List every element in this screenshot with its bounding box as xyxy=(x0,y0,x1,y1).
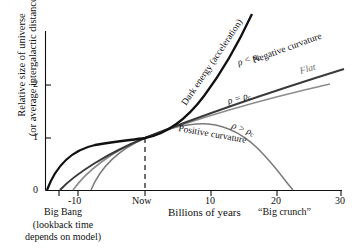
x-tick-label-30: 30 xyxy=(335,195,345,206)
y-tick-label-0: 0 xyxy=(33,184,38,195)
big-crunch-caption: “Big crunch” xyxy=(258,206,311,217)
y-tick-label-2: 2 xyxy=(33,78,38,89)
cosmology-expansion-figure: Dark energy (acceleration) Negative curv… xyxy=(0,0,358,251)
x-tick-label-10: 10 xyxy=(205,195,215,206)
y-axis-title-line2: (or average intergalactic distance) xyxy=(27,0,39,136)
big-bang-caption-line3: depends on model) xyxy=(2,231,124,244)
annotation-negative-curvature-text: Negative curvature xyxy=(251,31,323,65)
x-tick-label-minus10: -10 xyxy=(68,195,81,206)
y-tick-label-1: 1 xyxy=(33,131,38,142)
y-axis-title: Relative size of universe (or average in… xyxy=(14,0,40,150)
y-axis-title-line1: Relative size of universe xyxy=(16,0,28,136)
big-bang-caption-line2: (lookback time xyxy=(2,219,124,232)
x-axis-title: Billions of years xyxy=(168,206,241,218)
x-tick-label-20: 20 xyxy=(271,195,281,206)
x-tick-label-now: Now xyxy=(132,195,151,206)
annotation-negative-curvature: Negative curvature xyxy=(251,31,323,65)
big-bang-caption-line1: Big Bang xyxy=(2,206,124,219)
big-bang-caption: Big Bang (lookback time depends on model… xyxy=(2,206,124,244)
